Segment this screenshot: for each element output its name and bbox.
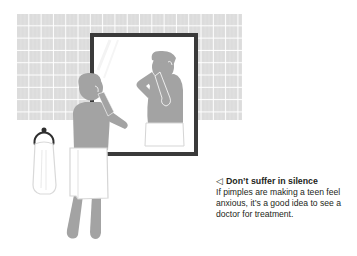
caption-title: ◁ Don’t suffer in silence	[216, 176, 356, 187]
caption-heading: Don’t suffer in silence	[226, 176, 318, 187]
hanging-towel	[33, 142, 56, 194]
left-triangle-arrow-icon: ◁	[216, 176, 223, 187]
caption-body: If pimples are making a teen feel anxiou…	[216, 187, 356, 220]
caption: ◁ Don’t suffer in silence If pimples are…	[216, 176, 356, 220]
